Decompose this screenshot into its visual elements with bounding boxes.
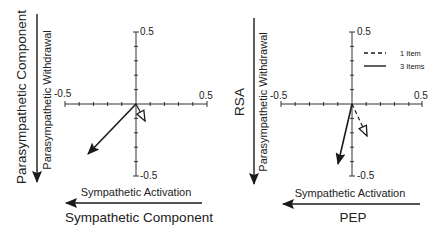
right-tick-x-min: -0.5	[270, 90, 288, 101]
left-inner-y-label: Parasympathetic Withdrawal	[41, 30, 53, 169]
right-vector-1-item	[352, 104, 367, 136]
right-outer-x-label: PEP	[339, 210, 366, 225]
left-outer-x-label: Sympathetic Component	[65, 210, 213, 225]
figure: Parasympathetic Component Parasympatheti…	[0, 0, 446, 236]
right-vector-3-items	[338, 104, 352, 164]
legend-label-3-items: 3 Items	[400, 62, 425, 71]
legend-label-1-item: 1 Item	[400, 49, 421, 58]
right-legend: 1 Item 3 Items	[364, 49, 425, 71]
right-tick-y-max: 0.5	[357, 26, 371, 37]
left-tick-x-max: 0.5	[199, 90, 213, 101]
left-tick-x-min: -0.5	[54, 88, 72, 99]
left-tick-y-max: 0.5	[140, 26, 154, 37]
right-inner-y-label: Parasympathetic Withdrawal	[257, 32, 269, 171]
left-inner-x-label: Sympathetic Activation	[81, 186, 192, 198]
left-panel: Parasympathetic Component Parasympatheti…	[14, 10, 213, 225]
left-outer-y-label: Parasympathetic Component	[14, 10, 29, 184]
left-tick-y-min: -0.5	[140, 170, 158, 181]
right-tick-y-min: -0.5	[357, 170, 375, 181]
right-tick-x-max: 0.5	[414, 90, 428, 101]
left-vector-3-items	[88, 104, 136, 154]
right-inner-x-label: Sympathetic Activation	[295, 187, 406, 199]
right-panel: RSA Parasympathetic Withdrawal	[232, 18, 428, 225]
right-outer-y-label: RSA	[232, 88, 247, 116]
